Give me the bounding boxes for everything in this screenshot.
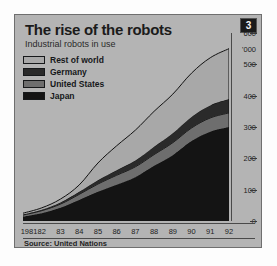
y-axis-tick-mark [250, 158, 257, 159]
x-axis-tick-label: 85 [94, 227, 102, 236]
x-axis-tick-label: 83 [56, 227, 64, 236]
y-axis-tick-mark [250, 33, 257, 34]
x-axis-tick-label: 92 [225, 227, 233, 236]
plot-svg [23, 33, 229, 221]
y-axis-tick-mark [250, 127, 257, 128]
source-note: Source: United Nations [24, 239, 107, 248]
x-axis-tick-label: 87 [131, 227, 139, 236]
x-axis-tick-label: 89 [169, 227, 177, 236]
x-axis-tick-label: 84 [75, 227, 83, 236]
x-axis-tick-label: 90 [187, 227, 195, 236]
y-axis: 0100200300400500600'000 [231, 33, 257, 221]
y-axis-tick-mark [250, 96, 257, 97]
x-axis-tick-label: 1981 [21, 227, 38, 236]
y-axis-tick-mark [250, 64, 257, 65]
y-axis-line [231, 33, 232, 221]
x-axis-tick-label: 86 [112, 227, 120, 236]
stacked-area-plot [23, 33, 229, 221]
y-axis-tick-mark [250, 221, 257, 222]
y-axis-tick-mark [250, 190, 257, 191]
x-axis-tick-label: 82 [38, 227, 46, 236]
x-axis: 19818283848586878889909192 [23, 223, 255, 239]
page-root: The rise of the robots Industrial robots… [0, 0, 277, 266]
y-axis-unit-label: '000 [242, 44, 256, 53]
chart-panel: The rise of the robots Industrial robots… [14, 14, 262, 248]
x-axis-tick-label: 91 [206, 227, 214, 236]
x-axis-tick-label: 88 [150, 227, 158, 236]
